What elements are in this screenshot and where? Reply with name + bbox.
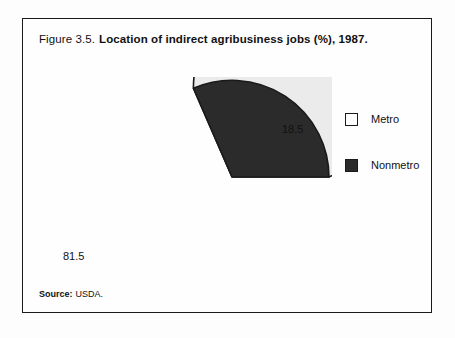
source-note: Source:USDA. [39, 289, 103, 299]
source-label: Source: [39, 289, 73, 299]
source-value: USDA. [76, 289, 104, 299]
dark-square-icon [345, 159, 358, 172]
legend-label-metro: Metro [371, 113, 399, 125]
figure-frame: Figure 3.5.Location of indirect agribusi… [22, 18, 432, 313]
pie-label-metro: 81.5 [63, 250, 84, 262]
figure-title: Figure 3.5.Location of indirect agribusi… [39, 33, 368, 45]
page-background: Figure 3.5.Location of indirect agribusi… [0, 0, 455, 338]
figure-number: Figure 3.5. [39, 33, 95, 45]
white-square-icon [345, 113, 358, 126]
legend-item-metro: Metro [345, 111, 455, 127]
legend-item-nonmetro: Nonmetro [345, 157, 455, 173]
legend: Metro Nonmetro [345, 111, 455, 203]
pie-label-nonmetro: 18.5 [282, 123, 303, 135]
pie-chart [132, 77, 332, 277]
legend-label-nonmetro: Nonmetro [371, 159, 419, 171]
figure-caption: Location of indirect agribusiness jobs (… [99, 33, 368, 45]
